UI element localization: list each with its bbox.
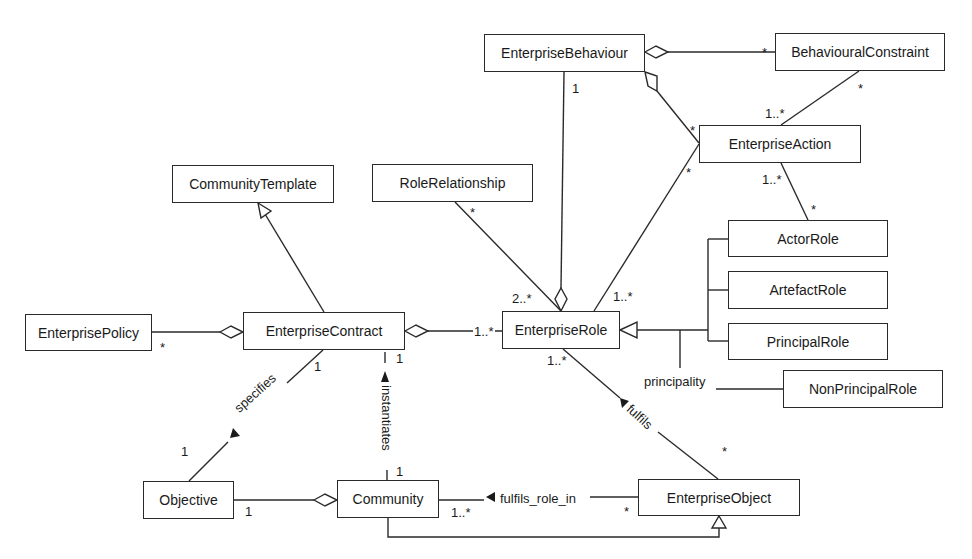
mult-community-instantiates-end: 1: [396, 465, 403, 478]
mult-community-fulfils-role-in-end: 1..*: [451, 506, 471, 519]
mult-objective-community-end: 1: [245, 505, 252, 518]
mult-object-fulfils-role-in-end: *: [624, 505, 629, 518]
mult-behaviour-role-end: 1: [572, 82, 579, 95]
class-enterprise-contract: EnterpriseContract: [243, 312, 405, 350]
specifies-arrow-icon: [230, 428, 240, 438]
class-role-relationship: RoleRelationship: [372, 164, 533, 202]
class-enterprise-policy: EnterprisePolicy: [25, 314, 152, 351]
class-enterprise-action: EnterpriseAction: [699, 125, 861, 163]
mult-objective-specifies-end: 1: [181, 445, 188, 458]
class-enterprise-role: EnterpriseRole: [502, 311, 620, 349]
mult-contract-role-end: 1..*: [473, 325, 495, 338]
class-behavioural-constraint: BehaviouralConstraint: [775, 33, 945, 71]
label-fulfils-role-in: fulfils_role_in: [500, 492, 576, 505]
label-principality: principality: [644, 375, 705, 388]
mult-contract-instantiates-end: 1: [396, 352, 403, 365]
class-objective: Objective: [143, 481, 234, 519]
mult-action-actor-action-end: 1..*: [762, 173, 782, 186]
mult-action-role-action-end: *: [686, 166, 691, 179]
class-enterprise-behaviour: EnterpriseBehaviour: [484, 34, 645, 72]
mult-constraint-action-constraint-end: *: [858, 82, 863, 95]
class-artefact-role: ArtefactRole: [728, 271, 888, 309]
class-actor-role: ActorRole: [728, 220, 888, 257]
mult-policy-end: *: [160, 341, 165, 354]
class-community: Community: [337, 480, 439, 518]
class-non-principal-role: NonPrincipalRole: [783, 370, 943, 408]
class-community-template: CommunityTemplate: [172, 165, 334, 203]
fulfils-role-in-arrow-icon: [486, 492, 495, 502]
mult-rolerel-rolerel-end: *: [470, 206, 475, 219]
mult-rolerel-role-end: 2..*: [512, 292, 532, 305]
mult-object-fulfils-end: *: [722, 445, 727, 458]
class-principal-role: PrincipalRole: [728, 323, 888, 360]
mult-action-role-role-end: 1..*: [613, 290, 633, 303]
label-instantiates: instantiates: [380, 385, 393, 451]
instantiates-arrow-icon: [381, 371, 389, 382]
mult-behaviour-action-end: *: [690, 124, 695, 137]
mult-constraint-action-action-end: 1..*: [765, 107, 785, 120]
mult-role-fulfils-end: 1..*: [547, 354, 567, 367]
class-enterprise-object: EnterpriseObject: [638, 479, 800, 516]
mult-behaviour-constraint-end: *: [762, 46, 767, 59]
mult-action-actor-actor-end: *: [811, 203, 816, 216]
mult-contract-specifies-end: 1: [314, 360, 321, 373]
